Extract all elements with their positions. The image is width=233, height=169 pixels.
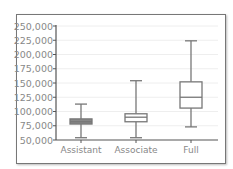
y-tick-label: 150,000 <box>14 78 53 89</box>
y-tick-label: 175,000 <box>14 63 53 74</box>
x-category-label: Assistant <box>60 145 101 155</box>
y-tick-label: 250,000 <box>14 21 53 32</box>
y-tick-label: 50,000 <box>20 135 53 146</box>
y-tick-label: 225,000 <box>14 35 53 46</box>
y-tick-label: 200,000 <box>14 49 53 60</box>
x-category-label: Associate <box>114 145 158 155</box>
y-tick-label: 75,000 <box>20 120 53 131</box>
y-tick-label: 125,000 <box>14 92 53 103</box>
box-full <box>180 82 202 108</box>
x-category-label: Full <box>183 145 198 155</box>
y-tick-label: 100,000 <box>14 106 53 117</box>
box-plot: 250,000225,000200,000175,000150,000125,0… <box>0 0 233 169</box>
